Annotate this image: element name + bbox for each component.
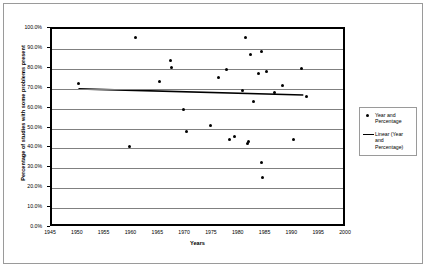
x-tick-label: 1965 xyxy=(151,229,163,235)
y-tick-label: 80.0% xyxy=(27,64,47,70)
gridline xyxy=(52,109,343,110)
chart-screenshot: 0.0%10.0%20.0%30.0%40.0%50.0%60.0%70.0%8… xyxy=(0,0,427,268)
x-tick-label: 1950 xyxy=(71,229,83,235)
y-tick-label: 30.0% xyxy=(27,163,47,169)
x-tick-label: 1975 xyxy=(205,229,217,235)
y-tick-mark xyxy=(47,226,50,227)
x-tick-label: 1955 xyxy=(98,229,110,235)
chart-legend: Year and Percentage Linear (Year and Per… xyxy=(359,107,417,156)
y-tick-label: 100.0% xyxy=(24,24,47,30)
legend-marker-icon xyxy=(363,112,375,120)
data-point xyxy=(260,161,263,164)
x-tick-label: 1990 xyxy=(286,229,298,235)
x-tick-label: 2000 xyxy=(339,229,351,235)
plot-area xyxy=(50,27,345,226)
data-point xyxy=(169,59,172,62)
y-tick-label: 90.0% xyxy=(27,44,47,50)
x-tick-label: 1970 xyxy=(178,229,190,235)
legend-label-scatter: Year and Percentage xyxy=(375,112,413,125)
trendline xyxy=(52,29,343,224)
legend-item-trendline: Linear (Year and Percentage) xyxy=(363,131,413,150)
gridline xyxy=(52,89,343,90)
data-point xyxy=(261,176,264,179)
gridline xyxy=(52,208,343,209)
y-tick-label: 20.0% xyxy=(27,183,47,189)
legend-label-trendline: Linear (Year and Percentage) xyxy=(375,131,413,150)
data-point xyxy=(233,135,236,138)
data-point xyxy=(185,130,188,133)
gridline xyxy=(52,129,343,130)
data-point xyxy=(209,124,212,127)
x-tick-label: 1980 xyxy=(232,229,244,235)
y-axis-title: Percentage of studies with some problems… xyxy=(20,18,26,208)
y-tick-label: 10.0% xyxy=(27,203,47,209)
trendline-path xyxy=(78,89,303,95)
x-axis-title: Years xyxy=(50,240,345,246)
plot-inner xyxy=(52,29,343,224)
data-point xyxy=(228,138,231,141)
x-axis-tick-labels: 1945195019551960196519701975198019851990… xyxy=(50,229,345,239)
y-tick-label: 60.0% xyxy=(27,104,47,110)
x-tick-label: 1960 xyxy=(125,229,137,235)
gridline xyxy=(52,168,343,169)
figure-frame: 0.0%10.0%20.0%30.0%40.0%50.0%60.0%70.0%8… xyxy=(3,3,423,264)
y-tick-label: 40.0% xyxy=(27,143,47,149)
data-point xyxy=(182,108,185,111)
gridline xyxy=(52,49,343,50)
gridline xyxy=(52,188,343,189)
y-tick-label: 70.0% xyxy=(27,84,47,90)
x-tick-label: 1985 xyxy=(259,229,271,235)
data-point xyxy=(170,66,173,69)
legend-line-icon xyxy=(363,131,375,139)
data-point xyxy=(292,138,295,141)
data-point xyxy=(252,100,255,103)
y-tick-label: 50.0% xyxy=(27,124,47,130)
x-tick-label: 1995 xyxy=(312,229,324,235)
legend-item-scatter: Year and Percentage xyxy=(363,112,413,125)
data-point xyxy=(247,140,250,143)
x-tick-label: 1945 xyxy=(44,229,56,235)
gridline xyxy=(52,148,343,149)
